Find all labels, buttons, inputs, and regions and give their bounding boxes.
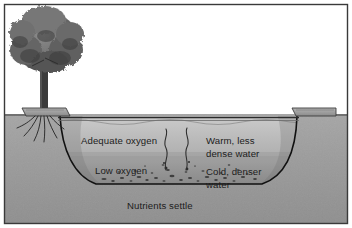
left-bank-ledge <box>22 108 70 116</box>
label-nutrients-settle: Nutrients settle <box>127 200 193 211</box>
label-cold-line1: Cold, denser <box>206 166 262 177</box>
diagram-canvas: Adequate oxygen Low oxygen Warm, less de… <box>0 0 352 228</box>
lake-stratification-figure: Adequate oxygen Low oxygen Warm, less de… <box>0 0 352 228</box>
label-adequate-oxygen: Adequate oxygen <box>81 135 157 146</box>
label-low-oxygen: Low oxygen <box>95 165 147 176</box>
label-warm-line1: Warm, less <box>206 135 255 146</box>
label-cold-line2: water <box>205 179 231 190</box>
label-warm-line2: dense water <box>206 148 260 159</box>
right-bank <box>292 108 336 116</box>
right-bank-ledge <box>292 108 336 116</box>
thermocline-boundary <box>50 152 310 161</box>
